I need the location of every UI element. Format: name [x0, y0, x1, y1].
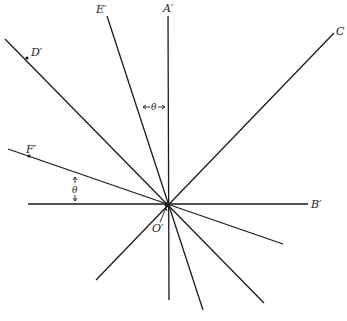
label-o-prime: O′	[152, 222, 164, 235]
ray-diagram: θ θ A′ B′ C D′ E′ F′ O′	[0, 0, 347, 321]
theta-label-left: θ	[72, 185, 78, 195]
ray-c	[96, 33, 334, 280]
ray-e-prime	[107, 16, 203, 310]
label-a-prime: A′	[162, 2, 174, 15]
rays	[5, 16, 334, 310]
point-d-prime	[25, 56, 28, 59]
theta-label-top: θ	[151, 102, 157, 112]
label-c: C	[336, 25, 345, 38]
origin-pointer-arrow	[160, 208, 167, 222]
label-e-prime: E′	[95, 3, 107, 16]
label-f-prime: F′	[25, 143, 37, 156]
ray-f-prime	[8, 149, 283, 244]
ray-d-prime	[5, 39, 264, 303]
origin-point	[165, 203, 170, 208]
ray-a-prime	[168, 16, 169, 300]
label-d-prime: D′	[30, 46, 43, 59]
label-b-prime: B′	[310, 198, 322, 211]
